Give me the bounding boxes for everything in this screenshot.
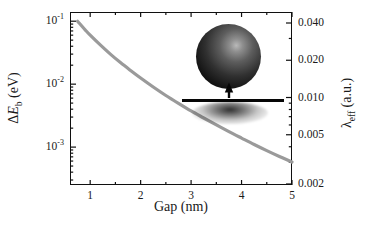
y-axis-left-subscript: b bbox=[14, 101, 24, 106]
right-tick-label: 0.040 bbox=[298, 17, 324, 29]
y-axis-left-title: ΔEb (eV) bbox=[6, 72, 22, 123]
bottom-tick-label: 5 bbox=[289, 190, 295, 202]
right-tick-label: 0.020 bbox=[298, 55, 324, 67]
left-tick-label: 10-2 bbox=[46, 78, 64, 90]
y-axis-left-delta: Δ bbox=[6, 115, 21, 124]
y-axis-right-subscript: eff bbox=[347, 111, 357, 121]
bottom-tick-label: 1 bbox=[87, 190, 93, 202]
bottom-tick-label: 4 bbox=[239, 190, 245, 202]
y-axis-left-unit: (eV) bbox=[6, 72, 21, 101]
y-axis-right-unit: (a.u.) bbox=[339, 78, 354, 111]
right-tick-label: 0.005 bbox=[298, 129, 324, 141]
right-tick-label: 0.010 bbox=[298, 92, 324, 104]
left-tick-label: 10-3 bbox=[46, 141, 64, 153]
bottom-tick-label: 2 bbox=[138, 190, 144, 202]
y-axis-right-title: λeff (a.u.) bbox=[339, 78, 355, 128]
left-tick-label: 10-1 bbox=[46, 15, 64, 27]
right-tick-label: 0.002 bbox=[298, 178, 324, 190]
inset-illustration bbox=[178, 20, 286, 130]
y-axis-left-symbol: E bbox=[6, 106, 21, 115]
x-axis-title: Gap (nm) bbox=[154, 199, 208, 215]
force-arrow-up bbox=[178, 20, 286, 130]
y-axis-right-symbol: λ bbox=[339, 121, 354, 128]
figure-panel: 10-110-210-3 0.0400.0200.0100.0050.002 1… bbox=[0, 0, 365, 234]
